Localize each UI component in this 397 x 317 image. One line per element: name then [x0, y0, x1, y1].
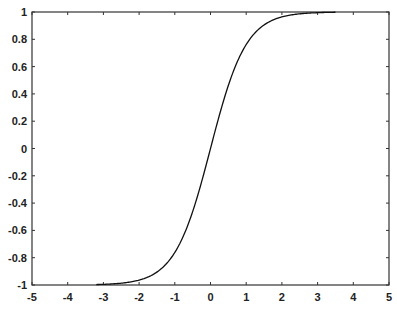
- y-tick-label: 0.8: [12, 33, 27, 45]
- x-tick-label: 5: [386, 291, 392, 303]
- x-tick-label: 3: [315, 291, 321, 303]
- x-tick-label: -1: [170, 291, 180, 303]
- y-tick-label: -0.6: [8, 224, 27, 236]
- x-tick-label: 4: [350, 291, 357, 303]
- y-tick-label: -1: [17, 279, 27, 291]
- y-tick-label: -0.8: [8, 252, 27, 264]
- y-tick-label: 0.2: [12, 115, 27, 127]
- x-tick-label: 0: [207, 291, 213, 303]
- y-tick-label: -0.2: [8, 170, 27, 182]
- x-tick-label: -5: [27, 291, 37, 303]
- y-tick-label: 0.4: [12, 88, 28, 100]
- chart: -5-4-3-2-1012345 -1-0.8-0.6-0.4-0.200.20…: [0, 0, 397, 317]
- y-tick-label: 0.6: [12, 61, 27, 73]
- y-tick-label: -0.4: [8, 197, 28, 209]
- y-tick-label: 1: [21, 6, 27, 18]
- x-tick-label: 1: [243, 291, 249, 303]
- y-tick-label: 0: [21, 143, 27, 155]
- x-tick-label: -4: [63, 291, 74, 303]
- x-tick-label: 2: [279, 291, 285, 303]
- x-tick-label: -3: [99, 291, 109, 303]
- x-tick-label: -2: [134, 291, 144, 303]
